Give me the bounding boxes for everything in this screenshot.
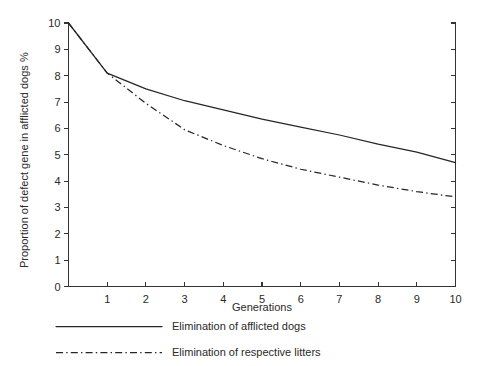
y-tick-label-2: 2	[54, 228, 60, 240]
y-tick-label-3: 3	[54, 201, 60, 213]
y-tick-label-4: 4	[54, 175, 60, 187]
y-tick-label-5: 5	[54, 149, 60, 161]
x-tick-label-4: 4	[220, 293, 226, 305]
y-tick-label-1: 1	[54, 254, 60, 266]
chart-figure: 012345678910 12345678910 Proportion of d…	[0, 0, 479, 366]
y-tick-label-9: 9	[54, 43, 60, 55]
chart-canvas: 012345678910 12345678910 Proportion of d…	[0, 0, 479, 366]
x-tick-label-8: 8	[375, 293, 381, 305]
y-tick-label-10: 10	[48, 17, 60, 29]
x-axis-title: Generations	[232, 301, 292, 313]
y-tick-label-7: 7	[54, 96, 60, 108]
x-tick-label-9: 9	[414, 293, 420, 305]
legend-label-1: Elimination of respective litters	[172, 346, 321, 358]
y-tick-label-8: 8	[54, 70, 60, 82]
x-tick-label-10: 10	[449, 293, 461, 305]
y-tick-label-0: 0	[54, 281, 60, 293]
y-axis-title: Proportion of defect gene in afflicted d…	[18, 52, 30, 268]
legend-label-0: Elimination of afflicted dogs	[172, 320, 306, 332]
x-tick-label-1: 1	[104, 293, 110, 305]
x-tick-label-2: 2	[143, 293, 149, 305]
x-tick-label-7: 7	[336, 293, 342, 305]
x-tick-label-3: 3	[182, 293, 188, 305]
y-tick-label-6: 6	[54, 122, 60, 134]
x-tick-label-6: 6	[298, 293, 304, 305]
